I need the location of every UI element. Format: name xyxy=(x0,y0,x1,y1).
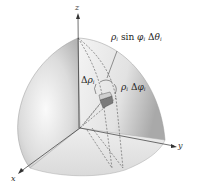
x-axis-label: x xyxy=(11,175,16,183)
z-arrowhead-icon xyxy=(76,13,80,19)
y-arrowhead-icon xyxy=(171,144,177,148)
arc-phi-label: ρi Δφi xyxy=(121,83,146,93)
delta-rho-label: Δρi xyxy=(81,76,95,86)
arc-theta-label: ρi sin φi Δθi xyxy=(111,33,162,43)
z-axis-label: z xyxy=(75,4,79,12)
diagram-canvas xyxy=(0,0,200,188)
y-axis-label: y xyxy=(178,142,183,150)
x-arrowhead-icon xyxy=(18,168,24,174)
spherical-volume-element-diagram: z x y ρi sin φi Δθi Δρi ρi Δφi xyxy=(0,0,200,188)
